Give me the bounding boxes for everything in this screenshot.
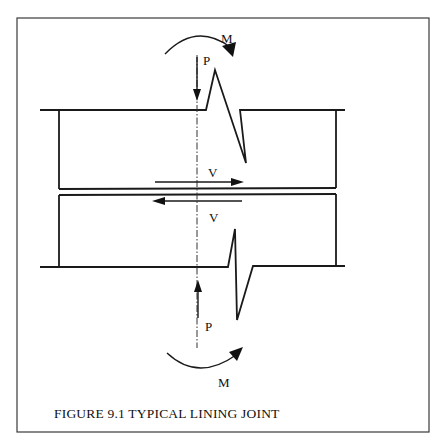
lower-segment-bottom-edge-with-stress-profile: [40, 229, 345, 320]
axial-arrow-bottom: [194, 280, 202, 318]
arrowhead-icon: [194, 280, 202, 292]
upper-segment-top-edge-with-stress-profile: [40, 70, 345, 163]
axial-label-bottom: P: [205, 319, 212, 334]
arrowhead-icon: [152, 197, 165, 205]
moment-label-top: M: [221, 31, 233, 46]
shear-label-upper: V: [208, 165, 218, 180]
axial-label-top: P: [203, 53, 210, 68]
shear-arrow-upper: [155, 178, 244, 186]
moment-arc-bottom: [167, 353, 236, 368]
figure-caption: FIGURE 9.1 TYPICAL LINING JOINT: [54, 406, 280, 421]
moment-arrow-bottom: [167, 347, 243, 368]
lower-lining-segment: [40, 194, 345, 320]
lining-joint-diagram: M P V V P M FIGURE 9.1 TYPICAL LINING JO…: [0, 0, 445, 446]
arrowhead-icon: [231, 178, 244, 186]
upper-lining-segment: [40, 70, 345, 189]
arrowhead-icon: [193, 89, 201, 101]
moment-label-bottom: M: [218, 375, 230, 390]
figure-frame: [17, 18, 429, 432]
upper-segment-bottom-edge: [59, 188, 336, 189]
axial-arrow-top: [193, 57, 201, 101]
shear-label-lower: V: [209, 210, 219, 225]
